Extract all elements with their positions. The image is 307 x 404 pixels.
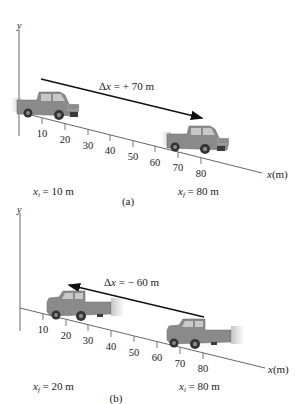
displacement-var: x (111, 276, 116, 288)
initial-value: = 10 m (43, 185, 74, 197)
final-sub: f (183, 191, 185, 199)
panel-a: y Δx = + 70 m 10 20 30 40 50 60 70 80 x(… (0, 0, 307, 200)
tick-label: 80 (196, 169, 207, 180)
x-axis-unit: (m) (273, 363, 289, 375)
initial-position-label: xi = 80 m (179, 381, 220, 394)
tick-label: 10 (38, 325, 49, 336)
final-value: = 20 m (43, 380, 74, 392)
final-sub: f (38, 386, 40, 394)
panel-caption: (b) (110, 393, 123, 404)
initial-value: = 80 m (189, 380, 220, 392)
y-axis-label: y (17, 205, 21, 215)
tick-label: 60 (152, 353, 163, 364)
panel-b-graphics (0, 200, 307, 402)
panel-b: y Δx = − 60 m 10 20 30 40 50 60 70 80 x(… (0, 200, 307, 402)
panel-a-graphics (0, 0, 307, 200)
final-position-label: xf = 20 m (33, 381, 74, 394)
tick-label: 40 (105, 146, 116, 157)
tick-label: 20 (61, 331, 72, 342)
x-axis-label: x(m) (268, 364, 289, 375)
tick-label: 20 (60, 135, 71, 146)
tick-label: 10 (37, 129, 48, 140)
tick-label: 70 (175, 359, 186, 370)
x-axis-unit: (m) (272, 168, 288, 180)
tick-label: 60 (150, 158, 161, 169)
y-axis-label: y (17, 21, 21, 31)
tick-label: 30 (83, 336, 94, 347)
initial-sub: i (184, 386, 186, 394)
tick-label: 50 (128, 152, 139, 163)
truck-start-icon (167, 319, 245, 349)
tick-label: 30 (83, 141, 94, 152)
final-value: = 80 m (188, 185, 219, 197)
displacement-var: x (106, 80, 111, 92)
initial-sub: i (38, 191, 40, 199)
initial-position-label: xi = 10 m (33, 186, 74, 199)
displacement-value: = − 60 m (119, 276, 159, 288)
displacement-label: Δx = − 60 m (104, 277, 159, 288)
x-axis-label: x(m) (267, 169, 288, 180)
tick-label: 40 (106, 342, 117, 353)
displacement-value: = + 70 m (114, 80, 154, 92)
tick-label: 80 (198, 364, 209, 375)
tick-label: 70 (173, 163, 184, 174)
displacement-label: Δx = + 70 m (99, 81, 154, 92)
truck-start-icon (11, 92, 79, 120)
final-position-label: xf = 80 m (178, 186, 219, 199)
tick-label: 50 (129, 348, 140, 359)
